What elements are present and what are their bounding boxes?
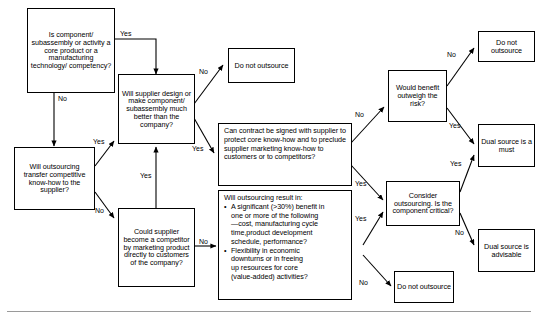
node-do-not-outsource-top[interactable]: Do not outsource bbox=[228, 48, 295, 83]
node-core-product[interactable]: Is component/ subassembly or activity a … bbox=[27, 8, 115, 93]
node-dual-source-must-label: Dual source is a must bbox=[479, 138, 534, 154]
edge-label-benefit-no: No bbox=[447, 51, 456, 58]
node-supplier-better[interactable]: Will supplier design or make component/ … bbox=[118, 74, 195, 144]
result-bullet-1: A significant (>30%) benefit in one or m… bbox=[224, 203, 348, 247]
node-do-not-outsource-top-label: Do not outsource bbox=[229, 62, 294, 70]
node-do-not-outsource-right[interactable]: Do not outsource bbox=[478, 31, 535, 62]
node-consider-outsourcing-label: Consider outsourcing. Is the component c… bbox=[387, 192, 459, 215]
node-become-competitor[interactable]: Could supplier become a competitor by ma… bbox=[118, 208, 195, 287]
node-consider-outsourcing[interactable]: Consider outsourcing. Is the component c… bbox=[386, 181, 460, 226]
flowchart-canvas: Is component/ subassembly or activity a … bbox=[0, 0, 540, 323]
edge-label-consider-yes: Yes bbox=[450, 160, 461, 167]
node-benefit-risk[interactable]: Would benefit outweigh the risk? bbox=[388, 70, 447, 122]
edge-label-core-no: No bbox=[58, 95, 67, 102]
node-benefit-risk-label: Would benefit outweigh the risk? bbox=[389, 84, 446, 107]
edge-core-yes bbox=[115, 39, 156, 74]
node-transfer-knowhow-label: Will outsourcing transfer competitive kn… bbox=[15, 163, 94, 194]
node-do-not-outsource-right-label: Do not outsource bbox=[479, 39, 534, 55]
edge-label-result-no: No bbox=[359, 279, 368, 286]
edge-label-contract-yes: Yes bbox=[355, 180, 366, 187]
edge-label-supplier-yes: Yes bbox=[192, 145, 203, 152]
node-contract-label: Can contract be signed with supplier to … bbox=[219, 124, 351, 162]
edge-label-contract-no: No bbox=[355, 111, 364, 118]
node-dual-source-advisable[interactable]: Dual source is advisable bbox=[478, 229, 535, 272]
node-do-not-outsource-bottom-label: Do not outsource bbox=[395, 283, 453, 291]
footer-rule bbox=[7, 311, 531, 312]
edge-label-competitor-yes: Yes bbox=[140, 172, 151, 179]
node-transfer-knowhow[interactable]: Will outsourcing transfer competitive kn… bbox=[14, 147, 95, 210]
edge-label-supplier-no: No bbox=[199, 68, 208, 75]
edge-label-consider-no: No bbox=[455, 229, 464, 236]
edge-label-transfer-yes: Yes bbox=[93, 138, 104, 145]
edge-transfer-no bbox=[95, 192, 114, 218]
node-become-competitor-label: Could supplier become a competitor by ma… bbox=[119, 228, 194, 267]
node-do-not-outsource-bottom[interactable]: Do not outsource bbox=[394, 271, 454, 303]
node-outsourcing-result[interactable]: Will outsourcing result in: A significan… bbox=[218, 190, 352, 300]
node-outsourcing-result-label: Will outsourcing result in: A significan… bbox=[219, 191, 351, 282]
result-bullet-2: Flexibility in economic downturns or in … bbox=[224, 247, 348, 282]
result-heading: Will outsourcing result in: bbox=[224, 193, 303, 202]
edge-label-core-yes: Yes bbox=[120, 30, 131, 37]
node-supplier-better-label: Will supplier design or make component/ … bbox=[119, 90, 194, 129]
node-core-product-label: Is component/ subassembly or activity a … bbox=[28, 31, 114, 70]
edge-label-transfer-no: No bbox=[95, 207, 104, 214]
edge-label-result-yes: Yes bbox=[355, 215, 366, 222]
node-dual-source-must[interactable]: Dual source is a must bbox=[478, 124, 535, 167]
edge-label-competitor-no: No bbox=[199, 238, 208, 245]
edge-consider-yes bbox=[460, 155, 474, 192]
node-dual-source-advisable-label: Dual source is advisable bbox=[479, 243, 534, 259]
edge-label-benefit-yes: Yes bbox=[449, 122, 460, 129]
node-contract[interactable]: Can contract be signed with supplier to … bbox=[218, 123, 352, 186]
